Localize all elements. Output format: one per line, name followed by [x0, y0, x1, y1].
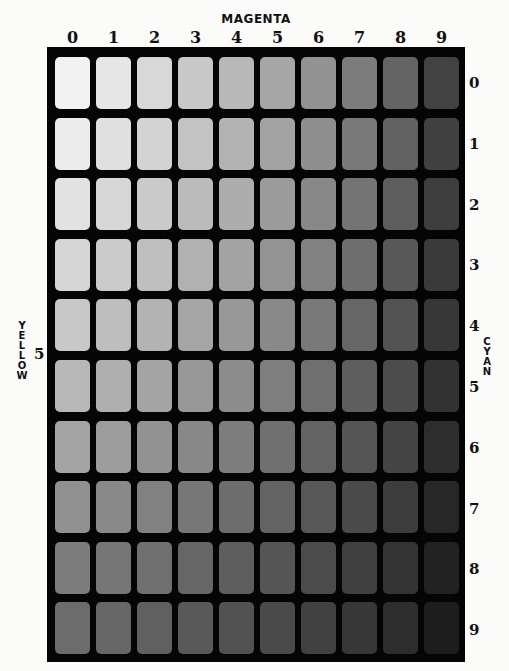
color-swatch — [219, 57, 254, 109]
yellow-axis-label: Y E L L O W — [16, 321, 28, 381]
color-swatch — [424, 299, 459, 351]
magenta-axis-title: MAGENTA — [47, 12, 465, 26]
column-label: 0 — [52, 28, 93, 47]
color-swatch — [55, 602, 90, 654]
color-swatch — [178, 542, 213, 594]
row-label: 8 — [469, 560, 479, 578]
color-swatch — [424, 118, 459, 170]
color-swatch — [137, 481, 172, 533]
color-swatch — [137, 57, 172, 109]
color-swatch — [96, 57, 131, 109]
color-swatch — [383, 360, 418, 412]
color-swatch — [260, 542, 295, 594]
color-swatch — [301, 57, 336, 109]
color-swatch — [260, 239, 295, 291]
color-swatch — [55, 118, 90, 170]
row-label: 4 — [469, 317, 479, 335]
color-swatch — [137, 542, 172, 594]
color-swatch — [137, 178, 172, 230]
color-swatch — [260, 602, 295, 654]
color-swatch — [424, 360, 459, 412]
color-swatch — [383, 481, 418, 533]
color-swatch — [260, 178, 295, 230]
color-swatch — [96, 542, 131, 594]
color-swatch — [178, 178, 213, 230]
color-swatch — [260, 57, 295, 109]
color-swatch — [219, 299, 254, 351]
color-swatch — [96, 178, 131, 230]
color-swatch — [424, 239, 459, 291]
color-swatch — [137, 602, 172, 654]
color-swatch — [383, 299, 418, 351]
color-swatch — [342, 239, 377, 291]
row-label: 0 — [469, 74, 479, 92]
color-swatch — [178, 239, 213, 291]
color-swatch — [383, 239, 418, 291]
magenta-column-labels: 0123456789 — [52, 28, 462, 48]
color-swatch — [342, 360, 377, 412]
color-swatch — [219, 602, 254, 654]
color-swatch — [301, 542, 336, 594]
color-swatch — [260, 299, 295, 351]
column-label: 8 — [380, 28, 421, 47]
color-swatch — [219, 239, 254, 291]
color-swatch — [424, 57, 459, 109]
color-swatch — [96, 481, 131, 533]
color-swatch — [55, 178, 90, 230]
color-swatch — [96, 118, 131, 170]
color-swatch — [342, 542, 377, 594]
color-swatch — [137, 239, 172, 291]
color-swatch — [55, 239, 90, 291]
color-swatch — [178, 602, 213, 654]
color-swatch — [55, 542, 90, 594]
color-swatch — [96, 602, 131, 654]
color-swatch — [137, 118, 172, 170]
color-swatch — [178, 299, 213, 351]
color-swatch — [301, 360, 336, 412]
row-label: 7 — [469, 500, 479, 518]
color-swatch — [260, 360, 295, 412]
column-label: 6 — [298, 28, 339, 47]
color-swatch — [301, 421, 336, 473]
color-swatch — [96, 239, 131, 291]
color-swatch — [301, 118, 336, 170]
row-label: 9 — [469, 621, 479, 639]
column-label: 3 — [175, 28, 216, 47]
color-swatch — [301, 481, 336, 533]
color-swatch — [342, 299, 377, 351]
column-label: 9 — [421, 28, 462, 47]
color-chart-grid — [47, 47, 465, 662]
color-swatch — [96, 421, 131, 473]
column-label: 4 — [216, 28, 257, 47]
yellow-level-value: 5 — [34, 345, 44, 363]
color-swatch — [178, 118, 213, 170]
color-swatch — [342, 602, 377, 654]
color-swatch — [137, 360, 172, 412]
color-swatch — [424, 421, 459, 473]
color-swatch — [383, 542, 418, 594]
color-swatch — [383, 57, 418, 109]
color-swatch — [55, 360, 90, 412]
color-swatch — [424, 481, 459, 533]
color-swatch — [219, 542, 254, 594]
color-swatch — [383, 421, 418, 473]
color-swatch — [178, 57, 213, 109]
color-swatch — [55, 57, 90, 109]
color-swatch — [342, 481, 377, 533]
color-swatch — [178, 481, 213, 533]
color-swatch — [383, 602, 418, 654]
color-swatch — [260, 118, 295, 170]
color-swatch — [55, 299, 90, 351]
color-swatch — [301, 178, 336, 230]
color-swatch — [219, 360, 254, 412]
row-label: 1 — [469, 135, 479, 153]
row-label: 2 — [469, 196, 479, 214]
cyan-axis-label: C Y A N — [481, 337, 493, 377]
color-swatch — [55, 421, 90, 473]
color-swatch — [424, 602, 459, 654]
row-label: 6 — [469, 439, 479, 457]
color-swatch — [383, 178, 418, 230]
color-swatch — [424, 542, 459, 594]
column-label: 5 — [257, 28, 298, 47]
color-swatch — [219, 421, 254, 473]
